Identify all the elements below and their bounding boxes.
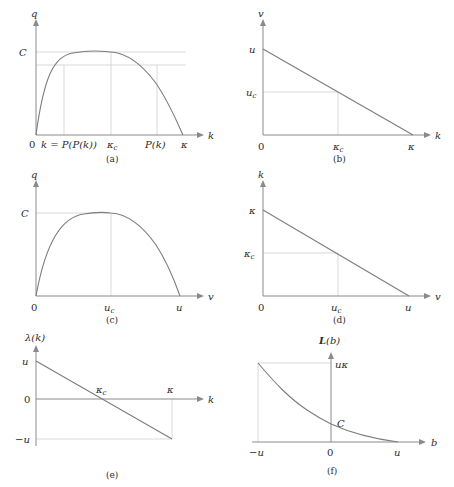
panel-b-xlabel: k [435,130,441,141]
panel-e-ytick-zero: 0 [24,394,30,405]
panel-d-axes [260,180,431,299]
panel-f-xlabel: b [431,437,437,448]
panel-c-xtick-uc: uc [104,302,114,315]
panel-d-xlabel: v [435,291,441,302]
panel-e-gridlines [36,399,172,439]
panel-a-gridlines [36,52,186,135]
panel-f-xtick-zero: 0 [327,447,333,458]
panel-b: u uc 0 κc κ v k (b) [227,4,454,166]
panel-a: C 0 k = P(P(k)) κc P(k) κ q k (a) [0,4,227,166]
panel-f-ytick-C: C [337,418,345,429]
figure-container: C 0 k = P(P(k)) κc P(k) κ q k (a) [0,0,454,487]
panel-a-ytick-C: C [19,47,27,58]
panel-c-ytick-C: C [21,208,29,219]
panel-e-ylabel: λ(k) [24,332,45,343]
panel-b-axes [260,19,431,138]
panel-a-xtick-kappa-c: κc [106,139,118,152]
panel-e-ytick-minus-u: −u [15,434,30,445]
panel-d-xtick-u: u [405,302,411,313]
panel-f-caption: (f) [327,466,337,476]
panel-e-caption: (e) [106,470,118,480]
panel-a-xtick-pk: P(k) [144,139,166,150]
panel-a-caption: (a) [106,154,118,164]
panel-d-ylabel: k [258,169,264,180]
panel-c-plot: C 0 uc u q v (c) [0,165,227,327]
panel-f-xtick-minus-u: −u [249,447,264,458]
panel-f-xtick-u: u [394,447,400,458]
panel-a-xtick-ppk: k = P(P(k)) [41,139,97,150]
panel-c-xtick-u: u [176,302,182,313]
panel-b-caption: (b) [333,154,346,164]
panel-d-xtick-uc: uc [331,302,341,315]
panel-c-ylabel: q [31,169,37,180]
panel-a-xtick-kappa: κ [180,139,188,150]
panel-a-plot: C 0 k = P(P(k)) κc P(k) κ q k (a) [0,4,227,166]
panel-b-ytick-u: u [249,44,255,55]
panel-f-curve [258,363,398,442]
panel-d-ytick-kappa: κ [248,205,256,216]
panel-b-ytick-uc: uc [246,87,256,100]
panel-f-ylabel: L(b) [318,335,340,346]
panel-e-xtick-kappa-c: κc [95,384,107,397]
panel-e-xlabel: k [208,394,214,405]
panel-c-xtick-zero: 0 [31,302,37,313]
panel-e-plot: u 0 −u κc κ λ(k) k (e) [0,326,227,487]
panel-c-curve [36,212,180,296]
panel-b-ylabel: v [258,8,264,19]
panel-b-plot: u uc 0 κc κ v k (b) [227,4,454,166]
panel-e-axes [33,345,204,446]
panel-e: u 0 −u κc κ λ(k) k (e) [0,326,227,487]
panel-a-xtick-zero: 0 [29,139,35,150]
panel-c: C 0 uc u q v (c) [0,165,227,327]
panel-d-ytick-kappa-c: κc [243,248,255,261]
panel-b-gridlines [263,92,338,135]
panel-e-xtick-kappa: κ [166,384,174,395]
panel-d-caption: (d) [333,315,346,325]
panel-c-caption: (c) [106,315,118,325]
panel-e-curve [36,361,172,439]
panel-b-xtick-kappa: κ [407,141,415,152]
panel-f-plot: uκ C −u 0 u L(b) b (f) [227,326,454,487]
panel-d: κ κc 0 uc u k v (d) [227,165,454,327]
panel-f: uκ C −u 0 u L(b) b (f) [227,326,454,487]
panel-b-xtick-kappa-c: κc [332,141,344,154]
panel-a-ylabel: q [31,8,37,19]
panel-f-ytick-ukappa: uκ [335,359,348,370]
panel-a-curve [36,51,183,135]
panel-c-axes [33,180,204,299]
panel-b-xtick-zero: 0 [258,141,264,152]
panel-d-plot: κ κc 0 uc u k v (d) [227,165,454,327]
panel-e-ytick-u: u [22,356,28,367]
panel-d-xtick-zero: 0 [258,302,264,313]
panel-d-gridlines [263,253,338,296]
panel-a-xlabel: k [208,130,214,141]
panel-a-axes [33,19,204,138]
panel-c-xlabel: v [208,291,214,302]
